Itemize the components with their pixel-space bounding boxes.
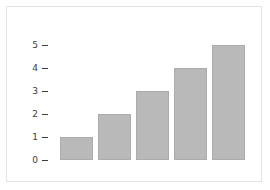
- y-axis-tick: 2: [30, 108, 58, 120]
- y-axis-tick-dash: [42, 68, 48, 69]
- y-axis-tick: 5: [30, 39, 58, 51]
- y-axis-tick-label: 1: [30, 133, 38, 142]
- y-axis-tick-label: 3: [30, 87, 38, 96]
- y-axis-tick-dash: [42, 114, 48, 115]
- y-axis-tick: 3: [30, 85, 58, 97]
- y-axis-tick-dash: [42, 45, 48, 46]
- y-axis-tick-label: 0: [30, 156, 38, 165]
- y-axis-tick-label: 4: [30, 64, 38, 73]
- y-axis-tick: 4: [30, 62, 58, 74]
- bar: [98, 114, 131, 160]
- y-axis-tick-label: 5: [30, 41, 38, 50]
- y-axis-tick-label: 2: [30, 110, 38, 119]
- y-axis-tick: 0: [30, 154, 58, 166]
- y-axis-tick: 1: [30, 131, 58, 143]
- bar: [212, 45, 245, 160]
- y-axis-tick-dash: [42, 160, 48, 161]
- y-axis-tick-dash: [42, 137, 48, 138]
- bar: [136, 91, 169, 160]
- plot-area: 012345: [0, 0, 270, 190]
- bar: [174, 68, 207, 160]
- y-axis-tick-dash: [42, 91, 48, 92]
- bar: [60, 137, 93, 160]
- chart-screenshot: 012345: [0, 0, 270, 190]
